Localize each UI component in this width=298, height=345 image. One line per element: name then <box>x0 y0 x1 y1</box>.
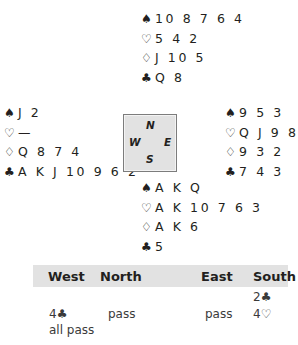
north-hearts: ♡5 4 2 <box>141 29 245 49</box>
south-hand: ♠A K Q ♡A K 10 7 6 3 ♢A K 6 ♣5 <box>141 178 263 256</box>
east-diamonds: ♢9 3 2 <box>225 142 298 162</box>
club-icon: ♣ <box>4 163 18 183</box>
south-spades: ♠A K Q <box>141 178 263 198</box>
header-west: West <box>33 269 100 284</box>
south-clubs: ♣5 <box>141 237 263 257</box>
west-hand: ♠J 2 ♡— ♢Q 8 7 4 ♣A K J 10 9 6 2 <box>4 103 138 181</box>
header-east: East <box>175 269 249 284</box>
north-diamonds: ♢J 10 5 <box>141 48 245 68</box>
east-spades: ♠9 5 3 <box>225 103 298 123</box>
east-hand: ♠9 5 3 ♡Q J 9 8 ♢9 3 2 ♣7 4 3 <box>225 103 298 181</box>
header-south: South <box>249 269 288 284</box>
heart-icon: ♡ <box>141 30 155 50</box>
north-spades: ♠10 8 7 6 4 <box>141 9 245 29</box>
auction-header: West North East South <box>33 265 288 287</box>
compass-east: E <box>164 136 171 148</box>
spade-icon: ♠ <box>141 179 155 199</box>
south-hearts: ♡A K 10 7 6 3 <box>141 198 263 218</box>
compass-south: S <box>146 153 154 165</box>
heart-icon: ♡ <box>4 124 18 144</box>
bid-cell: pass <box>100 307 175 321</box>
auction-row: 2♣ <box>33 289 288 306</box>
west-clubs: ♣A K J 10 9 6 2 <box>4 162 138 182</box>
bid-cell: 4♣ <box>33 307 100 321</box>
spade-icon: ♠ <box>225 104 239 124</box>
compass-north: N <box>146 119 155 131</box>
bid-cell: 2♣ <box>249 290 288 304</box>
east-hearts: ♡Q J 9 8 <box>225 123 298 143</box>
diamond-icon: ♢ <box>225 143 239 163</box>
compass-box: N W E S <box>123 114 177 172</box>
bid-cell: pass <box>175 307 249 321</box>
west-hearts: ♡— <box>4 123 138 143</box>
auction-row: all pass <box>33 322 288 339</box>
north-clubs: ♣Q 8 <box>141 68 245 88</box>
spade-icon: ♠ <box>141 10 155 30</box>
auction-row: 4♣ pass pass 4♡ <box>33 306 288 323</box>
north-hand: ♠10 8 7 6 4 ♡5 4 2 ♢J 10 5 ♣Q 8 <box>141 9 245 87</box>
spade-icon: ♠ <box>4 104 18 124</box>
west-spades: ♠J 2 <box>4 103 138 123</box>
diamond-icon: ♢ <box>141 49 155 69</box>
heart-icon: ♡ <box>141 199 155 219</box>
diamond-icon: ♢ <box>4 143 18 163</box>
auction-table: West North East South 2♣ 4♣ pass pass 4♡… <box>33 265 288 339</box>
west-diamonds: ♢Q 8 7 4 <box>4 142 138 162</box>
bid-cell: 4♡ <box>249 307 288 321</box>
south-diamonds: ♢A K 6 <box>141 217 263 237</box>
heart-icon: ♡ <box>225 124 239 144</box>
diamond-icon: ♢ <box>141 218 155 238</box>
compass-west: W <box>129 136 141 148</box>
club-icon: ♣ <box>141 69 155 89</box>
bid-cell: all pass <box>33 323 100 337</box>
header-north: North <box>100 269 175 284</box>
club-icon: ♣ <box>141 238 155 258</box>
